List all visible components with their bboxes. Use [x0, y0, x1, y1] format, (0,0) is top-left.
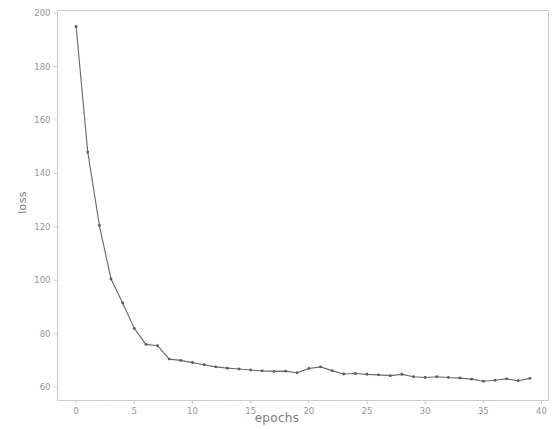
loss-data-point	[214, 365, 217, 368]
y-tick-label: 160	[34, 115, 50, 125]
loss-data-point	[412, 375, 415, 378]
y-tick-label: 60	[40, 382, 51, 392]
loss-data-point	[470, 378, 473, 381]
loss-data-point	[435, 375, 438, 378]
loss-data-point	[249, 369, 252, 372]
loss-data-point	[505, 377, 508, 380]
loss-data-point	[179, 359, 182, 362]
loss-data-point	[238, 368, 241, 371]
loss-data-point	[168, 358, 171, 361]
tick-labels-group: 05101520253035406080100120140160180200	[34, 8, 547, 415]
ticks-group	[54, 13, 542, 404]
loss-data-point	[98, 224, 101, 227]
loss-data-point	[121, 302, 124, 305]
loss-data-point	[354, 372, 357, 375]
loss-data-point	[366, 373, 369, 376]
loss-data-point	[203, 363, 206, 366]
y-axis-label: loss	[16, 173, 29, 233]
loss-data-point	[272, 370, 275, 373]
loss-data-point	[482, 380, 485, 383]
y-tick-label: 80	[40, 329, 51, 339]
loss-data-point	[331, 369, 334, 372]
loss-data-point	[494, 379, 497, 382]
loss-data-point	[110, 278, 113, 281]
loss-data-point	[447, 376, 450, 379]
y-tick-label: 140	[34, 168, 50, 178]
figure-canvas: 05101520253035406080100120140160180200 e…	[0, 0, 554, 429]
y-tick-label: 100	[34, 275, 50, 285]
loss-data-point	[226, 367, 229, 370]
data-series-group	[75, 25, 532, 383]
loss-data-point	[424, 376, 427, 379]
loss-data-point	[144, 343, 147, 346]
loss-data-point	[517, 379, 520, 382]
loss-data-point	[377, 373, 380, 376]
axes-group	[58, 11, 549, 401]
axis-spines	[58, 11, 549, 401]
loss-data-point	[528, 377, 531, 380]
loss-data-point	[389, 374, 392, 377]
loss-line	[76, 27, 530, 382]
loss-data-point	[86, 151, 89, 154]
loss-data-point	[261, 369, 264, 372]
loss-data-point	[75, 25, 78, 28]
x-axis-label: epochs	[0, 411, 554, 425]
loss-data-point	[284, 370, 287, 373]
y-tick-label: 200	[34, 8, 50, 18]
loss-data-point	[191, 361, 194, 364]
loss-curve-chart: 05101520253035406080100120140160180200	[0, 0, 554, 429]
loss-data-point	[459, 377, 462, 380]
loss-data-point	[296, 371, 299, 374]
loss-data-point	[319, 365, 322, 368]
y-tick-label: 180	[34, 62, 50, 72]
loss-data-point	[400, 373, 403, 376]
loss-data-point	[133, 327, 136, 330]
loss-data-point	[156, 344, 159, 347]
loss-data-point	[307, 367, 310, 370]
y-tick-label: 120	[34, 222, 50, 232]
loss-data-point	[342, 373, 345, 376]
